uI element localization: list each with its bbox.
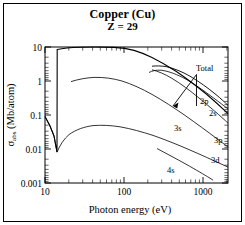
- figure-container: Copper (Cu) Z = 29: [0, 0, 245, 225]
- x-axis-title: Photon energy (eV): [89, 204, 172, 216]
- y-tick-label-10: 10: [33, 43, 43, 53]
- label-2s: 2s: [209, 108, 217, 118]
- curve-4s: [157, 149, 213, 181]
- x-tick-label-100: 100: [117, 187, 132, 197]
- y-axis-title: σabs (Mb/atom): [5, 83, 18, 147]
- label-3s: 3s: [174, 123, 182, 133]
- label-2p: 2p: [200, 96, 209, 106]
- y-tick-label-0.1: 0.1: [30, 111, 42, 121]
- x-axis-ticks: [45, 47, 203, 183]
- y-tick-label-0.001: 0.001: [21, 179, 43, 189]
- curve-2p: [152, 66, 228, 105]
- y-axis-minor-ticks: [45, 57, 228, 181]
- label-3p: 3p: [214, 135, 223, 145]
- total-leader-line: [173, 75, 197, 107]
- plot-area: 10 1 0.1 0.01 0.001: [0, 0, 245, 225]
- curve-3d: [45, 117, 228, 168]
- x-tick-label-10: 10: [40, 187, 50, 197]
- curve-3p: [152, 70, 228, 123]
- curve-3s: [71, 77, 228, 147]
- y-tick-label-1: 1: [37, 77, 42, 87]
- y-tick-label-0.01: 0.01: [25, 145, 42, 155]
- x-tick-label-1000: 1000: [194, 187, 213, 197]
- label-3d: 3d: [211, 155, 220, 165]
- label-4s: 4s: [167, 165, 175, 175]
- label-total: Total: [196, 63, 214, 73]
